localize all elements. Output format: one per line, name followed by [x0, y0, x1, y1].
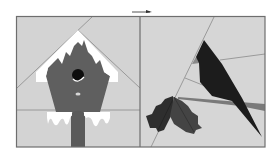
birdhouse-perch — [76, 93, 81, 96]
quilt-illustration — [0, 0, 278, 155]
arrow-icon — [132, 10, 152, 13]
left-panel-birdhouse — [17, 17, 140, 147]
right-panel-cardinal — [140, 17, 265, 147]
